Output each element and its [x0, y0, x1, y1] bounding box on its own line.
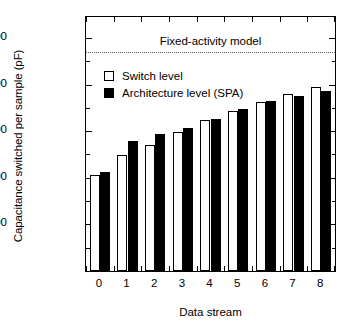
y-tick-mark	[86, 61, 90, 62]
x-tick-mark	[86, 266, 87, 271]
x-tick-label: 4	[198, 277, 222, 289]
x-tick-label: 8	[308, 277, 332, 289]
x-tick-mark	[141, 266, 142, 271]
bar-architecture-level-2	[155, 134, 165, 271]
bar-architecture-level-4	[211, 119, 221, 271]
legend-label-architecture-level: Architecture level (SPA)	[122, 87, 243, 99]
x-tick-label: 5	[225, 277, 249, 289]
y-axis-title: Capacitance switched per sample (pF)	[12, 21, 24, 271]
bar-architecture-level-1	[128, 141, 138, 271]
legend-label-switch-level: Switch level	[122, 70, 183, 82]
bar-switch-level-7	[283, 94, 293, 271]
bar-switch-level-5	[228, 111, 238, 271]
x-tick-label: 2	[142, 277, 166, 289]
legend-item-architecture-level: Architecture level (SPA)	[104, 84, 243, 101]
bar-switch-level-3	[173, 132, 183, 271]
x-tick-label: 6	[253, 277, 277, 289]
y-tick-mark	[329, 85, 335, 86]
chart-legend: Switch level Architecture level (SPA)	[104, 67, 243, 101]
x-tick-mark	[280, 266, 281, 271]
x-tick-mark-top	[334, 17, 335, 22]
y-tick-mark	[332, 108, 336, 109]
plot-inner: Fixed-activity model Switch level Archit…	[86, 17, 335, 271]
y-tick-mark	[332, 201, 336, 202]
y-tick-mark	[332, 61, 336, 62]
bar-switch-level-8	[311, 87, 321, 271]
y-tick-mark	[86, 85, 92, 86]
bar-architecture-level-7	[294, 96, 304, 271]
plot-area: Fixed-activity model Switch level Archit…	[85, 16, 336, 272]
x-axis-title: Data stream	[85, 306, 336, 318]
legend-swatch-hollow-square-icon	[104, 71, 114, 81]
y-tick-mark	[86, 108, 90, 109]
capacitance-bar-chart: Capacitance switched per sample (pF) Dat…	[0, 0, 348, 327]
x-tick-mark-top	[141, 17, 142, 22]
bar-switch-level-2	[145, 145, 155, 271]
bar-switch-level-1	[117, 155, 127, 272]
x-tick-mark	[252, 266, 253, 271]
y-tick-label: 1,000	[0, 217, 7, 229]
bar-architecture-level-5	[238, 109, 248, 271]
x-tick-mark-top	[280, 17, 281, 22]
bar-architecture-level-8	[321, 91, 331, 271]
y-tick-label: 4,000	[0, 78, 7, 90]
bar-switch-level-0	[90, 175, 100, 271]
x-tick-mark	[197, 266, 198, 271]
x-tick-mark-top	[307, 17, 308, 22]
y-tick-label: 2,000	[0, 171, 7, 183]
x-tick-label: 0	[87, 277, 111, 289]
y-tick-mark	[332, 248, 336, 249]
fixed-activity-model-line	[86, 52, 335, 53]
x-tick-mark	[169, 266, 170, 271]
x-tick-mark-top	[114, 17, 115, 22]
x-tick-mark-top	[197, 17, 198, 22]
x-tick-mark-top	[252, 17, 253, 22]
x-tick-mark	[334, 266, 335, 271]
x-tick-label: 1	[115, 277, 139, 289]
fixed-activity-model-label: Fixed-activity model	[86, 35, 335, 47]
y-tick-label: 3,000	[0, 124, 7, 136]
x-tick-label: 3	[170, 277, 194, 289]
y-tick-mark	[332, 154, 336, 155]
x-tick-label: 7	[281, 277, 305, 289]
bar-switch-level-6	[256, 102, 266, 271]
x-tick-mark	[307, 266, 308, 271]
legend-item-switch-level: Switch level	[104, 67, 243, 84]
bar-architecture-level-3	[183, 128, 193, 271]
x-tick-mark-top	[224, 17, 225, 22]
y-tick-mark	[86, 154, 90, 155]
legend-swatch-filled-square-icon	[104, 88, 114, 98]
bar-architecture-level-0	[100, 172, 110, 271]
x-tick-mark-top	[86, 17, 87, 22]
bar-switch-level-4	[200, 120, 210, 271]
x-tick-mark-top	[169, 17, 170, 22]
x-tick-mark	[224, 266, 225, 271]
y-tick-mark	[86, 131, 92, 132]
x-tick-mark	[114, 266, 115, 271]
bar-architecture-level-6	[266, 101, 276, 271]
y-tick-label: 5,000	[0, 31, 7, 43]
